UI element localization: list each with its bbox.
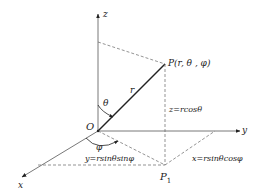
diagram-canvas — [0, 0, 257, 196]
p1-main: P — [160, 171, 167, 182]
phi-label: φ — [96, 143, 102, 152]
z-axis-label: z — [103, 10, 108, 19]
y-axis-label: y — [242, 126, 247, 135]
theta-label: θ — [103, 99, 108, 108]
z-formula-label: z=rcosθ — [169, 106, 202, 114]
point-p-label: P(r, θ , φ) — [168, 59, 210, 68]
origin-label: O — [86, 122, 94, 132]
p1-subscript: 1 — [167, 177, 171, 185]
spherical-coordinate-diagram: z y x O P(r, θ , φ) r θ φ z=rcosθ y=rsin… — [0, 0, 257, 196]
x-axis-label: x — [18, 181, 23, 190]
origin-point — [97, 130, 99, 132]
dashed-z-to-p — [98, 42, 165, 64]
p1-label: P1 — [160, 172, 171, 185]
y-formula-label: y=rsinθsinφ — [85, 155, 134, 163]
radius-label: r — [130, 86, 134, 95]
x-formula-label: x=rsinθcosφ — [192, 155, 243, 163]
radius-vector — [98, 64, 165, 131]
